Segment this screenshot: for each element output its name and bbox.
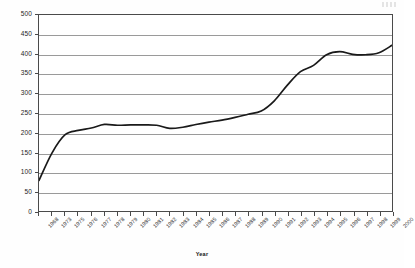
x-tick-label: 1989 [257, 216, 270, 229]
y-tick-label: 50 [25, 189, 32, 196]
x-tick-label: 1988 [244, 216, 257, 229]
x-tick-label: 1998 [375, 216, 388, 229]
y-tick-label: 350 [21, 70, 32, 77]
x-tick-label: 1996 [349, 216, 362, 229]
plot-area [38, 14, 393, 212]
y-tick-label: 0 [28, 209, 32, 216]
x-tick-label: 2000 [402, 216, 415, 229]
x-tick-label: 1973 [60, 216, 73, 229]
x-tick-label: 1975 [73, 216, 86, 229]
x-axis-title: Year [0, 251, 404, 257]
gridline [39, 55, 392, 56]
y-tick-label: 150 [21, 149, 32, 156]
y-tick-label: 300 [21, 90, 32, 97]
y-tick-label: 200 [21, 130, 32, 137]
x-tick-label: 1978 [112, 216, 125, 229]
x-tick-label: 1984 [191, 216, 204, 229]
x-tick-label: 1982 [165, 216, 178, 229]
x-axis-labels: 1968197319751976197719781979198019811982… [38, 216, 393, 252]
gridline [39, 74, 392, 75]
gridline [39, 134, 392, 135]
x-tick-label: 1991 [283, 216, 296, 229]
x-tick-label: 1986 [218, 216, 231, 229]
x-tick-label: 1995 [336, 216, 349, 229]
x-tick-label: 1993 [310, 216, 323, 229]
scan-artifact [382, 2, 398, 7]
x-tick-label: 1979 [126, 216, 139, 229]
gridline [39, 35, 392, 36]
gridlines [39, 15, 392, 211]
x-tick-label: 1976 [86, 216, 99, 229]
y-tick-label: 500 [21, 11, 32, 18]
gridline [39, 114, 392, 115]
x-tick-label: 1977 [99, 216, 112, 229]
x-tick-label: 1990 [270, 216, 283, 229]
y-tick-label: 450 [21, 31, 32, 38]
x-tick-label: 1981 [152, 216, 165, 229]
x-tick-label: 1980 [139, 216, 152, 229]
x-tick-mark [393, 212, 394, 216]
gridline [39, 193, 392, 194]
y-tick-label: 250 [21, 110, 32, 117]
x-tick-label: 1983 [178, 216, 191, 229]
y-tick-label: 100 [21, 169, 32, 176]
x-tick-label: 1968 [47, 216, 60, 229]
x-tick-label: 1985 [204, 216, 217, 229]
x-tick-label: 1997 [362, 216, 375, 229]
gridline [39, 173, 392, 174]
gridline [39, 94, 392, 95]
y-tick-label: 400 [21, 50, 32, 57]
x-tick-label: 1994 [323, 216, 336, 229]
gridline [39, 154, 392, 155]
x-tick-label: 1992 [296, 216, 309, 229]
x-tick-label: 1987 [231, 216, 244, 229]
x-tick-label: 1999 [388, 216, 401, 229]
y-axis-labels: 050100150200250300350400450500 [0, 0, 36, 212]
